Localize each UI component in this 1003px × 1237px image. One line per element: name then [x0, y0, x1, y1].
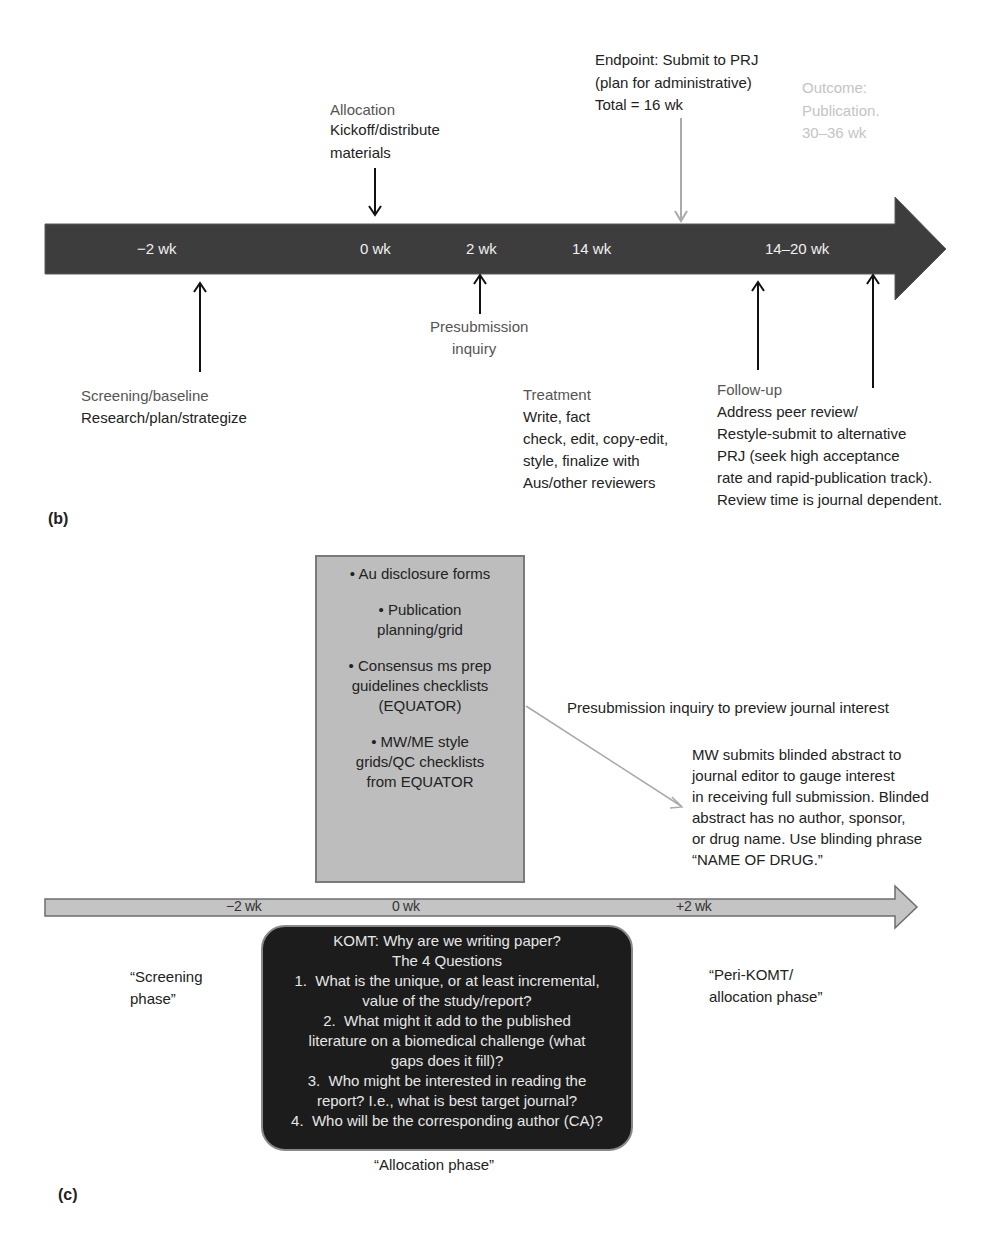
komt-q2-c: gaps does it fill)? — [263, 1051, 631, 1071]
komt-q3-a: 3. Who might be interested in reading th… — [263, 1071, 631, 1091]
treatment-title: Treatment — [523, 385, 591, 405]
checklist-item-disclosure: • Au disclosure forms — [317, 564, 523, 584]
outcome-line-2: Publication. — [802, 101, 880, 121]
outcome-line-3: 30–36 wk — [802, 123, 866, 143]
presubmission-detail-6: “NAME OF DRUG.” — [692, 850, 823, 870]
endpoint-line-3: Total = 16 wk — [595, 95, 683, 115]
presubmission-detail-4: abstract has no author, sponsor, — [692, 808, 905, 828]
komt-subtitle: The 4 Questions — [263, 951, 631, 971]
screening-title: Screening/baseline — [81, 386, 209, 406]
tick-c-plus-2-wk: +2 wk — [676, 898, 711, 914]
treatment-line-1: Write, fact — [523, 407, 590, 427]
komt-title: KOMT: Why are we writing paper? — [263, 931, 631, 951]
screening-phase-line-2: phase” — [130, 989, 176, 1009]
tick-c-minus-2-wk: −2 wk — [226, 898, 261, 914]
followup-arrow-icon — [752, 282, 764, 370]
tick-2-wk: 2 wk — [466, 240, 497, 257]
presubmission-connector-arrow-icon — [526, 706, 682, 808]
komt-q4: 4. Who will be the corresponding author … — [263, 1111, 631, 1131]
checklist-box: • Au disclosure forms • Publication plan… — [315, 555, 525, 883]
screening-line-1: Research/plan/strategize — [81, 408, 247, 428]
tick-14-20-wk: 14–20 wk — [765, 240, 829, 257]
peri-komt-phase-line-2: allocation phase” — [709, 987, 822, 1007]
komt-q2-b: literature on a biomedical challenge (wh… — [263, 1031, 631, 1051]
screening-arrow-icon — [194, 283, 206, 372]
presubmission-detail-5: or drug name. Use blinding phrase — [692, 829, 922, 849]
followup-line-4: rate and rapid-publication track). — [717, 468, 932, 488]
allocation-title: Allocation — [330, 100, 395, 120]
checklist-item-style-grids: • MW/ME style grids/QC checklists from E… — [317, 732, 523, 792]
followup-line-2: Restyle-submit to alternative — [717, 424, 906, 444]
presubmission-detail-1: MW submits blinded abstract to — [692, 745, 901, 765]
presubmission-detail-3: in receiving full submission. Blinded — [692, 787, 929, 807]
followup-line-5: Review time is journal dependent. — [717, 490, 942, 510]
timeline-arrow-c — [45, 886, 917, 928]
followup-line-3: PRJ (seek high acceptance — [717, 446, 900, 466]
restyle-arrow-icon — [867, 275, 879, 388]
panel-label-b: (b) — [48, 510, 68, 528]
presubmission-line-1: Presubmission — [430, 317, 528, 337]
tick-0-wk: 0 wk — [360, 240, 391, 257]
panel-label-c: (c) — [58, 1186, 78, 1204]
treatment-line-4: Aus/other reviewers — [523, 473, 656, 493]
tick-minus-2-wk: −2 wk — [137, 240, 177, 257]
treatment-line-3: style, finalize with — [523, 451, 640, 471]
allocation-arrow-icon — [369, 168, 381, 215]
checklist-item-consensus-guidelines: • Consensus ms prep guidelines checklist… — [317, 656, 523, 716]
tick-c-0-wk: 0 wk — [392, 898, 420, 914]
followup-title: Follow-up — [717, 380, 782, 400]
presubmission-detail-2: journal editor to gauge interest — [692, 766, 895, 786]
checklist-item-publication-planning: • Publication planning/grid — [317, 600, 523, 640]
presubmission-heading: Presubmission inquiry to preview journal… — [567, 698, 889, 718]
screening-phase-line-1: “Screening — [130, 967, 203, 987]
presubmission-arrow-icon — [474, 275, 486, 314]
komt-q1-b: value of the study/report? — [263, 991, 631, 1011]
allocation-phase-label: “Allocation phase” — [374, 1155, 494, 1175]
komt-questions-box: KOMT: Why are we writing paper? The 4 Qu… — [261, 925, 633, 1151]
followup-line-1: Address peer review/ — [717, 402, 858, 422]
allocation-line-1: Kickoff/distribute — [330, 120, 440, 140]
komt-q1-a: 1. What is the unique, or at least incre… — [263, 971, 631, 991]
endpoint-line-2: (plan for administrative) — [595, 73, 752, 93]
komt-q3-b: report? I.e., what is best target journa… — [263, 1091, 631, 1111]
treatment-line-2: check, edit, copy-edit, — [523, 429, 668, 449]
presubmission-line-2: inquiry — [452, 339, 496, 359]
endpoint-line-1: Endpoint: Submit to PRJ — [595, 50, 758, 70]
endpoint-arrow-icon — [675, 118, 687, 221]
outcome-line-1: Outcome: — [802, 78, 867, 98]
allocation-line-2: materials — [330, 143, 391, 163]
peri-komt-phase-line-1: “Peri-KOMT/ — [709, 965, 793, 985]
komt-q2-a: 2. What might it add to the published — [263, 1011, 631, 1031]
tick-14-wk: 14 wk — [572, 240, 611, 257]
